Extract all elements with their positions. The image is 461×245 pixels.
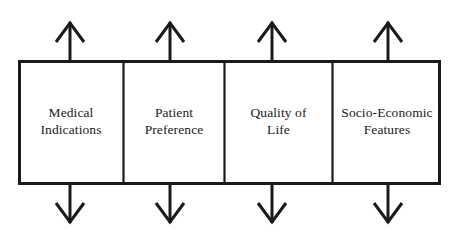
down-arrow-group-patient-preference (156, 184, 184, 223)
down-arrow-group-quality-of-life (258, 184, 286, 223)
up-arrow-group-socio-economic-features (374, 22, 402, 61)
diagram-canvas: Medical Indications Patient Preference Q… (0, 0, 461, 245)
box-band-outline (20, 62, 440, 184)
up-arrow-group-medical-indications (56, 22, 84, 61)
down-arrow-group-socio-economic-features (374, 184, 402, 223)
down-arrow-group-medical-indications (56, 184, 84, 223)
up-arrow-group-quality-of-life (258, 22, 286, 61)
up-arrow-group-patient-preference (156, 22, 184, 61)
diagram-svg (0, 0, 461, 245)
